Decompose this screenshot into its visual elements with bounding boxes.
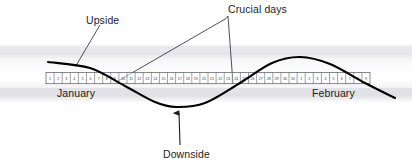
calendar-day-january-16: 16: [170, 77, 174, 81]
calendar-strip: 1234567891011121314151617181920212223242…: [46, 73, 370, 84]
calendar-day-january-6: 6: [90, 77, 92, 81]
calendar-day-february-6: 6: [341, 77, 343, 81]
month-label-february: February: [312, 87, 355, 99]
calendar-day-january-15: 15: [161, 77, 165, 81]
annotation-upside: Upside: [86, 14, 119, 26]
calendar-day-february-7: 7: [349, 77, 351, 81]
calendar-day-january-1: 1: [49, 77, 51, 81]
calendar-day-january-17: 17: [178, 77, 182, 81]
calendar-day-january-12: 12: [137, 77, 141, 81]
calendar-day-february-9: 9: [365, 77, 367, 81]
annotation-crucial-days: Crucial days: [228, 3, 287, 15]
calendar-day-january-5: 5: [81, 77, 83, 81]
calendar-day-january-18: 18: [186, 77, 190, 81]
calendar-day-january-22: 22: [218, 77, 222, 81]
diagram-canvas: 1234567891011121314151617181920212223242…: [0, 0, 412, 168]
calendar-day-february-3: 3: [316, 77, 318, 81]
calendar-day-january-21: 21: [210, 77, 214, 81]
calendar-day-january-24: 24: [234, 77, 238, 81]
calendar-day-january-30: 30: [283, 77, 287, 81]
calendar-day-january-23: 23: [226, 77, 230, 81]
calendar-day-january-31: 31: [291, 77, 295, 81]
calendar-day-january-11: 11: [129, 77, 133, 81]
calendar-day-february-5: 5: [333, 77, 335, 81]
annotation-downside: Downside: [163, 148, 210, 160]
calendar-day-february-2: 2: [308, 77, 310, 81]
calendar-day-january-2: 2: [57, 77, 59, 81]
calendar-day-february-4: 4: [324, 77, 326, 81]
calendar-day-january-7: 7: [98, 77, 100, 81]
calendar-day-january-4: 4: [73, 77, 75, 81]
calendar-day-january-3: 3: [65, 77, 67, 81]
month-label-january: January: [57, 87, 95, 99]
calendar-day-february-1: 1: [300, 77, 302, 81]
downside-arrow: [179, 113, 180, 145]
calendar-day-january-20: 20: [202, 77, 206, 81]
calendar-day-january-14: 14: [153, 77, 157, 81]
calendar-day-january-10: 10: [121, 77, 125, 81]
calendar-day-january-19: 19: [194, 77, 198, 81]
calendar-day-january-26: 26: [251, 77, 255, 81]
calendar-day-january-29: 29: [275, 77, 279, 81]
diagram-svg: 1234567891011121314151617181920212223242…: [0, 0, 412, 168]
calendar-day-january-13: 13: [145, 77, 149, 81]
calendar-day-january-28: 28: [267, 77, 271, 81]
calendar-day-january-8: 8: [106, 77, 108, 81]
calendar-day-january-27: 27: [259, 77, 263, 81]
